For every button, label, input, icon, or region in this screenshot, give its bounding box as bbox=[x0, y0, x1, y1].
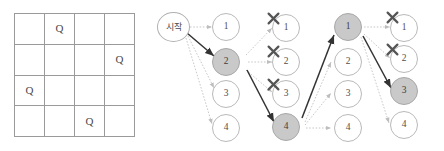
tree-node-c2-2[interactable]: 2 bbox=[272, 48, 300, 76]
tree-node-start[interactable]: 시작 bbox=[157, 12, 190, 42]
tree-node-c1-3[interactable]: 3 bbox=[212, 80, 240, 108]
edge-c1n2-to-c2n1 bbox=[246, 28, 272, 55]
tree-node-c1-4[interactable]: 4 bbox=[212, 114, 240, 142]
board-cell bbox=[75, 14, 105, 45]
tree-node-c1-2[interactable]: 2 bbox=[212, 48, 240, 76]
board-cell: Q bbox=[75, 106, 105, 137]
tree-node-c1-1[interactable]: 1 bbox=[212, 13, 240, 41]
board-cell bbox=[45, 76, 75, 107]
tree-node-c3-1[interactable]: 1 bbox=[334, 13, 362, 41]
tree-node-c4-2[interactable]: 2 bbox=[390, 45, 418, 73]
tree-node-c4-4[interactable]: 4 bbox=[390, 111, 418, 139]
solution-path-edges-group bbox=[187, 33, 391, 122]
board-cell bbox=[45, 45, 75, 76]
tree-node-c4-3[interactable]: 3 bbox=[390, 77, 418, 105]
tree-node-c3-3[interactable]: 3 bbox=[334, 80, 362, 108]
tree-node-c2-1[interactable]: 1 bbox=[272, 14, 300, 42]
edge-c3n1-to-c4n4 bbox=[361, 37, 389, 123]
board-cell bbox=[15, 14, 45, 45]
chessboard-grid: Q Q Q Q bbox=[14, 13, 135, 137]
board-cell bbox=[105, 106, 135, 137]
tree-node-c3-4[interactable]: 4 bbox=[334, 114, 362, 142]
tree-node-c2-3[interactable]: 3 bbox=[272, 80, 300, 108]
board-cell: Q bbox=[15, 76, 45, 107]
board-cell: Q bbox=[45, 14, 75, 45]
edge-c3n1-to-c4n3 bbox=[363, 36, 391, 88]
edge-c2n4-to-c3n1 bbox=[302, 35, 334, 118]
edge-start-to-c1n3 bbox=[188, 36, 214, 88]
board-cell bbox=[15, 106, 45, 137]
board-cell bbox=[15, 45, 45, 76]
board-cell bbox=[105, 14, 135, 45]
tree-node-c2-4[interactable]: 4 bbox=[272, 113, 300, 141]
chessboard-panel: Q Q Q Q bbox=[14, 13, 135, 137]
edge-c1n2-to-c2n3 bbox=[246, 70, 272, 92]
edge-c1n2-to-c2n4 bbox=[247, 70, 274, 122]
edge-c2n4-to-c3n2 bbox=[305, 62, 331, 122]
board-cell bbox=[75, 76, 105, 107]
tree-node-c4-1[interactable]: 1 bbox=[390, 14, 418, 42]
edge-c2n4-to-c3n3 bbox=[305, 93, 331, 125]
board-cell: Q bbox=[105, 45, 135, 76]
search-tree-panel: 시작 1 2 3 4 1 2 3 4 1 2 3 4 1 2 3 4 bbox=[150, 0, 444, 151]
board-cell bbox=[75, 45, 105, 76]
board-cell bbox=[45, 106, 75, 137]
tree-node-c3-2[interactable]: 2 bbox=[334, 48, 362, 76]
edge-start-to-c1n2 bbox=[187, 33, 214, 56]
board-cell bbox=[105, 76, 135, 107]
